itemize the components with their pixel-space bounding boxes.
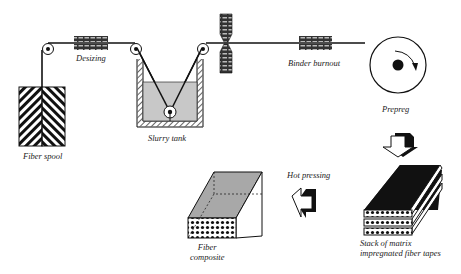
label-stack-line2: impregnated fiber tapes	[360, 248, 441, 258]
label-binder-burnout: Binder burnout	[288, 58, 340, 68]
process-diagram	[0, 0, 461, 274]
label-slurry-tank: Slurry tank	[148, 133, 186, 143]
stacked-tapes	[364, 165, 442, 235]
fiber-spool	[19, 87, 65, 146]
label-fiber-composite: Fiber composite	[190, 242, 224, 262]
left-arrow-icon	[292, 188, 316, 218]
label-fiber-spool: Fiber spool	[23, 151, 62, 161]
roller-1	[43, 44, 54, 55]
label-hot-pressing: Hot pressing	[287, 170, 330, 180]
down-arrow-icon	[383, 133, 418, 157]
label-prepreg: Prepreg	[382, 104, 409, 114]
label-fiber-composite-line1: Fiber	[190, 242, 224, 252]
slurry-tank	[137, 48, 203, 127]
label-stack: Stack of matrix impregnated fiber tapes	[360, 238, 441, 258]
label-desizing: Desizing	[76, 53, 106, 63]
label-fiber-composite-line2: composite	[190, 252, 224, 262]
prepreg-drum	[370, 37, 426, 93]
fiber-composite	[188, 172, 262, 238]
label-stack-line1: Stack of matrix	[360, 238, 441, 248]
